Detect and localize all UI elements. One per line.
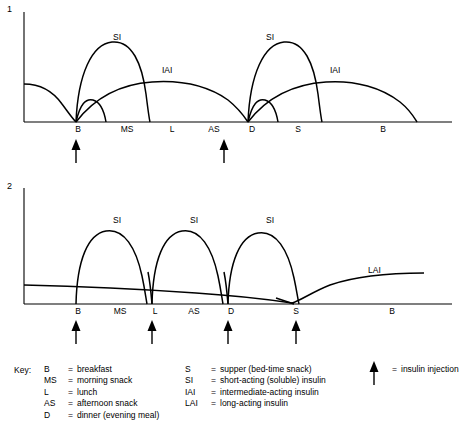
key-abbr: LAI	[185, 398, 211, 409]
curve-label-si: SI	[113, 33, 121, 42]
key-description: insulin injection	[401, 364, 459, 375]
key-abbr: B	[44, 364, 68, 375]
key-abbr: IAI	[185, 387, 211, 398]
curve-label-iai: IAI	[330, 66, 340, 75]
injection-arrow-B	[72, 320, 81, 344]
si-curve-3	[228, 233, 299, 304]
injection-arrow-D	[220, 139, 229, 163]
si-early-hump-curve	[76, 100, 106, 122]
iai-curve-2	[248, 82, 417, 122]
x-tick-label-l: L	[153, 307, 158, 316]
key-row: L = lunch	[44, 387, 159, 398]
key-description: short-acting (soluble) insulin	[220, 375, 326, 386]
curve-label-si: SI	[190, 216, 198, 225]
insulin-profile-panel-1: 1	[0, 0, 459, 170]
x-tick-label-s: S	[295, 125, 301, 134]
key-description: supper (bed-time snack)	[220, 364, 312, 375]
key-equals: =	[211, 387, 220, 398]
injection-arrow-B	[72, 139, 81, 163]
key-row: = insulin injection	[392, 364, 459, 375]
key-equals: =	[211, 375, 220, 386]
x-tick-label-ms: MS	[114, 307, 127, 316]
key-description: breakfast	[77, 364, 112, 375]
lai-curve	[24, 273, 424, 303]
key-description: dinner (evening meal)	[77, 410, 159, 421]
x-tick-label-b: B	[75, 307, 81, 316]
x-tick-label-ms: MS	[121, 125, 134, 134]
x-tick-label-b: B	[389, 307, 395, 316]
x-tick-label-b: B	[75, 125, 81, 134]
curve-label-si: SI	[266, 33, 274, 42]
key-equals: =	[68, 364, 77, 375]
key-abbr: S	[185, 364, 211, 375]
key-column-right: = insulin injection	[392, 364, 459, 375]
key-abbr: AS	[44, 398, 68, 409]
iai-overnight-tail-curve	[24, 84, 76, 122]
key-equals: =	[68, 398, 77, 409]
x-tick-label-as: AS	[188, 307, 199, 316]
key-description: afternoon snack	[77, 398, 137, 409]
curve-label-lai: LAI	[368, 266, 381, 275]
iai-curve-1	[76, 82, 248, 122]
curve-label-si: SI	[266, 216, 274, 225]
x-tick-label-s: S	[293, 307, 299, 316]
x-tick-label-b: B	[380, 125, 386, 134]
figure-root: 1	[0, 0, 459, 428]
key-description: morning snack	[77, 375, 132, 386]
key-column-middle: S = supper (bed-time snack) SI = short-a…	[185, 364, 326, 410]
key-abbr: SI	[185, 375, 211, 386]
key-column-left: B = breakfast MS = morning snack L = lun…	[44, 364, 159, 421]
key-row: SI = short-acting (soluble) insulin	[185, 375, 326, 386]
key-equals: =	[211, 364, 220, 375]
key-row: S = supper (bed-time snack)	[185, 364, 326, 375]
key-equals: =	[68, 387, 77, 398]
key-row: LAI = long-acting insulin	[185, 398, 326, 409]
x-tick-label-d: D	[228, 307, 234, 316]
si-evening-hump-curve	[248, 100, 278, 122]
key-equals: =	[68, 410, 77, 421]
curve-label-iai: IAI	[162, 66, 172, 75]
panel-2-plot	[0, 172, 459, 350]
key-description: long-acting insulin	[220, 398, 288, 409]
insulin-injection-arrow-icon	[367, 360, 381, 386]
key-equals: =	[392, 364, 401, 375]
key-row: D = dinner (evening meal)	[44, 410, 159, 421]
key-equals: =	[211, 398, 220, 409]
key-equals: =	[68, 375, 77, 386]
key-abbr: D	[44, 410, 68, 421]
injection-arrow-L	[148, 320, 157, 344]
injection-arrow-S	[292, 320, 301, 344]
key-row: AS = afternoon snack	[44, 398, 159, 409]
key-abbr: MS	[44, 375, 68, 386]
x-tick-label-l: L	[170, 125, 175, 134]
injection-arrow-D	[224, 320, 233, 344]
si-curve-1	[76, 231, 147, 304]
key-description: intermediate-acting insulin	[220, 387, 319, 398]
x-tick-label-as: AS	[208, 125, 219, 134]
x-tick-label-d: D	[249, 125, 255, 134]
key-row: B = breakfast	[44, 364, 159, 375]
key-description: lunch	[77, 387, 97, 398]
curve-label-si: SI	[113, 216, 121, 225]
key-title: Key:	[14, 366, 31, 375]
key-row: MS = morning snack	[44, 375, 159, 386]
panel-1-plot	[0, 0, 459, 170]
key-legend: Key: B = breakfast MS = morning snack L …	[0, 352, 459, 428]
key-abbr: L	[44, 387, 68, 398]
si-curve-2-tail	[224, 272, 228, 304]
key-row: IAI = intermediate-acting insulin	[185, 387, 326, 398]
insulin-profile-panel-2: 2	[0, 172, 459, 350]
